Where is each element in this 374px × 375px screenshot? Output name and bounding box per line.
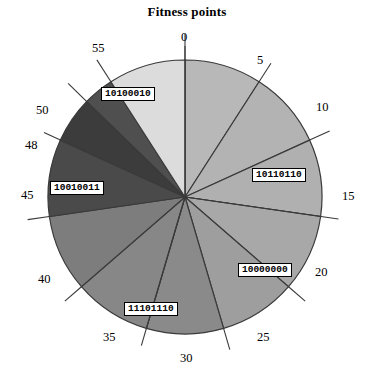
tick-label-10: 10 xyxy=(316,101,329,114)
slice-annotation-10010011: 10010011 xyxy=(50,181,104,195)
tick-label-40: 40 xyxy=(38,273,51,286)
tick-label-25: 25 xyxy=(257,331,270,344)
tick-label-50: 50 xyxy=(36,104,49,117)
slice-annotation-11101110: 11101110 xyxy=(124,302,178,316)
leader-line-48 xyxy=(68,83,87,101)
leader-line-50 xyxy=(97,60,111,82)
slice-annotation-10110110: 10110110 xyxy=(252,168,306,182)
tick-label-5: 5 xyxy=(257,54,263,67)
tick-label-35: 35 xyxy=(103,331,116,344)
slice-annotation-10100010: 10100010 xyxy=(101,87,155,101)
leader-line-35 xyxy=(65,287,82,301)
leader-line-10 xyxy=(310,131,330,140)
tick-label-55: 55 xyxy=(92,42,105,55)
leader-line-40 xyxy=(28,217,50,220)
slice-annotation-10000000: 10000000 xyxy=(238,263,292,277)
pie-chart: Fitness points 0 5 10 15 20 25 30 35 40 … xyxy=(0,0,374,375)
tick-label-15: 15 xyxy=(342,190,355,203)
tick-label-20: 20 xyxy=(315,266,328,279)
tick-label-48: 48 xyxy=(25,139,38,152)
tick-label-30: 30 xyxy=(180,352,193,365)
leader-line-25 xyxy=(224,328,230,349)
tick-label-45: 45 xyxy=(21,189,34,202)
leader-line-20 xyxy=(289,287,306,301)
tick-label-0: 0 xyxy=(181,31,187,44)
leader-line-45 xyxy=(44,133,60,140)
